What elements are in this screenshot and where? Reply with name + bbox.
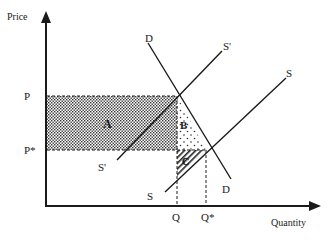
quantity-axis-arrow-icon	[309, 201, 321, 211]
region-a-label: A	[103, 117, 112, 131]
price-p-label: P	[24, 90, 30, 102]
supply-top-label: S	[286, 67, 292, 79]
demand-bottom-label: D	[222, 183, 230, 195]
region-b-label: B	[180, 119, 188, 131]
region-c-label: C	[182, 156, 189, 167]
region-a	[47, 96, 177, 150]
price-axis-label: Price	[7, 11, 28, 22]
price-axis-arrow-icon	[41, 11, 51, 23]
quantity-axis-label: Quantity	[271, 217, 306, 228]
shifted-supply-bottom-label: S'	[98, 161, 106, 173]
supply-bottom-label: S	[147, 190, 153, 202]
quantity-q-label: Q	[172, 211, 180, 223]
shifted-supply-top-label: S'	[223, 40, 231, 52]
quantity-qstar-label: Q*	[201, 211, 214, 223]
demand-top-label: D	[145, 32, 153, 44]
price-pstar-label: P*	[24, 144, 36, 156]
tax-incidence-diagram: Price Quantity P P* Q Q* D D S' S' S S A…	[0, 0, 331, 240]
